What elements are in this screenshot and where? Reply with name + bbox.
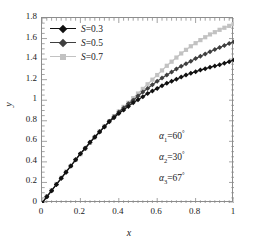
x-axis-title: x (0, 227, 258, 238)
annotation-alpha3: α3=67° (159, 171, 185, 185)
y-tick-1.2: 1.2 (11, 74, 37, 83)
x-tick-1: 1 (218, 207, 248, 216)
plot-area: S=0.3 S=0.5 S=0.7 α1=60° (41, 17, 233, 202)
y-tick-1: 1 (11, 94, 37, 103)
y-tick-1.8: 1.8 (11, 12, 37, 21)
y-tick-0.2: 0.2 (11, 176, 37, 185)
legend-label-s03: S=0.3 (81, 24, 103, 34)
y-tick-0.8: 0.8 (11, 115, 37, 124)
legend-marker-s07 (50, 52, 76, 61)
y-tick-0.6: 0.6 (11, 135, 37, 144)
legend-marker-s03 (50, 24, 76, 33)
y-axis-title: y (3, 102, 14, 106)
x-tick-0.6: 0.6 (141, 207, 171, 216)
y-tick-0.4: 0.4 (11, 156, 37, 165)
y-tick-1.6: 1.6 (11, 33, 37, 42)
legend-label-s05: S=0.5 (81, 38, 103, 48)
x-tick-0: 0 (26, 207, 56, 216)
x-tick-0.2: 0.2 (64, 207, 94, 216)
x-tick-0.8: 0.8 (180, 207, 210, 216)
y-tick-0: 0 (11, 197, 37, 206)
legend-item-s05[interactable]: S=0.5 (50, 37, 103, 48)
annotation-alpha1: α1=60° (159, 129, 185, 143)
y-tick-1.4: 1.4 (11, 53, 37, 62)
chart-figure: 00.20.40.60.811.21.41.61.8 00.20.40.60.8… (0, 0, 258, 250)
legend-marker-s05 (50, 38, 76, 47)
legend: S=0.3 S=0.5 S=0.7 (50, 23, 103, 62)
annotation-alpha2: α2=30° (159, 150, 185, 164)
legend-label-s07: S=0.7 (81, 52, 103, 62)
legend-item-s03[interactable]: S=0.3 (50, 23, 103, 34)
x-tick-0.4: 0.4 (103, 207, 133, 216)
annotation-group: α1=60° α2=30° α3=67° (159, 129, 185, 185)
legend-item-s07[interactable]: S=0.7 (50, 51, 103, 62)
